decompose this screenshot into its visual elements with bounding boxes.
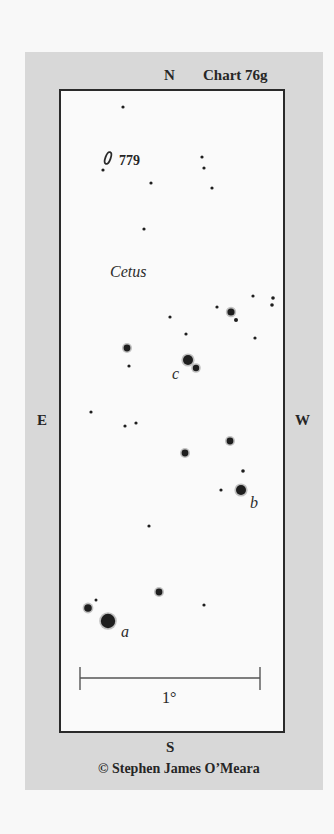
star xyxy=(251,294,254,297)
star xyxy=(253,336,256,339)
star xyxy=(210,186,213,189)
star xyxy=(84,604,92,612)
star xyxy=(101,614,115,628)
star xyxy=(124,345,131,352)
scale-bar xyxy=(80,667,260,690)
star-label-b: b xyxy=(250,495,258,511)
star-label-c: c xyxy=(172,366,179,382)
star xyxy=(89,410,92,413)
star xyxy=(271,296,275,300)
star xyxy=(241,469,245,473)
star xyxy=(123,424,126,427)
star xyxy=(227,308,234,315)
star xyxy=(219,488,222,491)
scale-label: 1° xyxy=(162,690,176,706)
star xyxy=(156,589,163,596)
star xyxy=(121,105,124,108)
constellation-label: Cetus xyxy=(110,264,146,280)
star xyxy=(142,227,145,230)
star xyxy=(149,181,152,184)
star xyxy=(227,438,234,445)
star xyxy=(236,485,246,495)
star xyxy=(168,315,171,318)
object-label: 779 xyxy=(119,154,140,168)
galaxy-icon xyxy=(103,151,112,164)
star xyxy=(134,421,137,424)
star xyxy=(95,599,98,602)
star xyxy=(270,303,274,307)
star xyxy=(202,603,205,606)
star xyxy=(215,305,218,308)
star xyxy=(234,318,238,322)
star xyxy=(184,332,187,335)
star xyxy=(147,524,150,527)
star xyxy=(127,364,130,367)
star xyxy=(200,155,203,158)
star xyxy=(183,355,193,365)
star xyxy=(182,450,189,457)
star-map xyxy=(0,0,334,834)
star xyxy=(193,365,199,371)
star xyxy=(202,166,205,169)
star xyxy=(101,168,104,171)
star-label-a: a xyxy=(121,624,129,640)
